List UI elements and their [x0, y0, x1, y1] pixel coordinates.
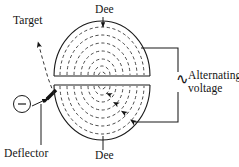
- beam-arrow-3: [120, 108, 128, 116]
- lower-dee: [54, 85, 150, 140]
- alternating-voltage-label: Alternating voltage: [188, 69, 239, 94]
- dee-bottom-label: Dee: [95, 149, 114, 162]
- dee-top-label: Dee: [95, 3, 114, 16]
- upper-dee-outline: [54, 21, 150, 76]
- beam-arrow-1: [105, 91, 112, 98]
- deflector-label: Deflector: [4, 147, 48, 160]
- lower-dee-outline: [54, 85, 150, 140]
- upper-dee-beam-arcs: [60, 27, 144, 75]
- lower-dee-beam-arcs: [60, 86, 144, 134]
- deflector-plate: [44, 90, 56, 102]
- cyclotron-diagram: Dee Dee Target Deflector ∿ Alternating v…: [0, 0, 239, 167]
- upper-dee: [54, 21, 150, 76]
- target-beam-path: [38, 42, 54, 94]
- target-label: Target: [13, 14, 43, 27]
- ion-source: [14, 96, 31, 113]
